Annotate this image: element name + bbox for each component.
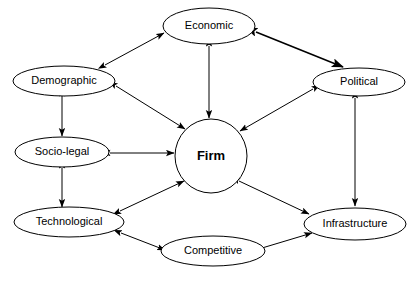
edge-firm-infrastructure: [239, 181, 309, 214]
node-socio-legal[interactable]: Socio-legal: [15, 137, 109, 167]
edge-economic-political: [256, 32, 343, 67]
diagram-canvas: EconomicDemographicPoliticalSocio-legalF…: [0, 0, 415, 286]
node-political[interactable]: Political: [313, 68, 405, 96]
node-technological[interactable]: Technological: [14, 207, 124, 237]
node-label-political: Political: [340, 75, 378, 87]
node-competitive[interactable]: Competitive: [161, 236, 265, 266]
node-label-infrastructure: Infrastructure: [323, 217, 388, 229]
edge-technological-competitive: [121, 233, 165, 250]
node-economic[interactable]: Economic: [163, 8, 255, 44]
node-demographic[interactable]: Demographic: [13, 66, 115, 96]
node-label-demographic: Demographic: [31, 74, 97, 86]
node-label-technological: Technological: [36, 215, 103, 227]
environment-diagram: EconomicDemographicPoliticalSocio-legalF…: [0, 0, 415, 286]
node-label-economic: Economic: [185, 19, 234, 31]
edge-technological-firm: [120, 181, 184, 211]
node-infrastructure[interactable]: Infrastructure: [304, 208, 406, 240]
node-label-firm: Firm: [197, 148, 225, 163]
edge-political-firm: [240, 89, 313, 131]
node-label-socio-legal: Socio-legal: [35, 145, 89, 157]
node-label-competitive: Competitive: [184, 244, 242, 256]
node-firm[interactable]: Firm: [175, 119, 247, 193]
edge-competitive-infrastructure: [262, 233, 312, 248]
edge-demographic-economic: [105, 33, 164, 65]
edge-demographic-firm: [116, 86, 185, 129]
